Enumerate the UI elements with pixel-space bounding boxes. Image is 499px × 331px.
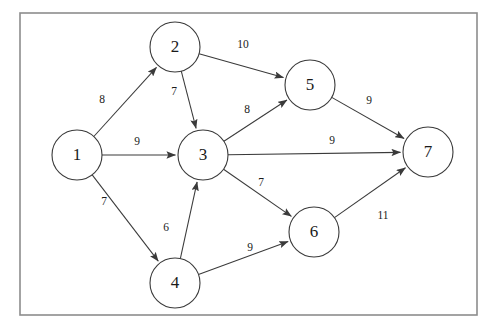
- edge-weight-layer: 89771089769911: [99, 38, 389, 253]
- node-label-7: 7: [424, 142, 433, 161]
- edge-weight-6-7: 11: [377, 209, 388, 221]
- edge-3-to-7: [228, 152, 401, 154]
- edge-weight-4-6: 9: [247, 241, 253, 253]
- node-label-2: 2: [171, 37, 180, 56]
- edge-6-to-7: [334, 168, 405, 218]
- edge-weight-3-6: 7: [258, 176, 264, 188]
- edge-weight-1-4: 7: [101, 195, 107, 207]
- edge-weight-3-7: 9: [329, 134, 335, 146]
- edge-2-to-3: [181, 71, 196, 128]
- node-layer: 1234567: [52, 22, 453, 308]
- node-label-5: 5: [306, 75, 315, 94]
- node-label-4: 4: [171, 273, 180, 292]
- edge-weight-3-5: 8: [244, 103, 250, 115]
- edge-weight-1-3: 9: [134, 135, 140, 147]
- edge-weight-4-3: 6: [163, 221, 169, 233]
- edge-weight-2-3: 7: [171, 85, 177, 97]
- edge-weight-1-2: 8: [99, 93, 105, 105]
- edge-2-to-5: [199, 54, 283, 78]
- edge-4-to-6: [198, 241, 288, 274]
- graph-figure: 1234567 89771089769911: [0, 0, 499, 331]
- edge-4-to-3: [180, 182, 197, 259]
- edge-weight-2-5: 10: [237, 38, 249, 50]
- edge-3-to-5: [224, 100, 287, 141]
- node-label-3: 3: [199, 145, 208, 164]
- node-label-6: 6: [310, 222, 319, 241]
- edge-weight-5-7: 9: [366, 94, 372, 106]
- node-label-1: 1: [73, 145, 82, 164]
- edge-1-to-4: [92, 175, 158, 261]
- graph-canvas: 1234567 89771089769911: [0, 0, 499, 331]
